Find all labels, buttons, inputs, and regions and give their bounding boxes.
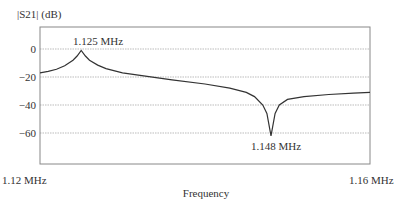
y-tick-label: −60 — [19, 127, 37, 139]
y-axis-label: |S21| (dB) — [17, 8, 62, 21]
annotation-notch: 1.148 MHz — [251, 140, 301, 152]
s21-chart: 0−20−40−60 |S21| (dB) 1.12 MHz 1.16 MHz … — [0, 0, 408, 208]
annotation-peak: 1.125 MHz — [73, 35, 123, 47]
x-tick-min: 1.12 MHz — [2, 174, 47, 186]
gridlines — [40, 49, 370, 133]
y-tick-label: −40 — [19, 99, 37, 111]
y-tick-labels: 0−20−40−60 — [19, 43, 37, 139]
x-tick-max: 1.16 MHz — [349, 174, 394, 186]
s21-curve — [40, 50, 370, 135]
x-axis-label: Frequency — [183, 187, 230, 199]
y-tick-label: 0 — [31, 43, 37, 55]
y-tick-label: −20 — [19, 71, 37, 83]
